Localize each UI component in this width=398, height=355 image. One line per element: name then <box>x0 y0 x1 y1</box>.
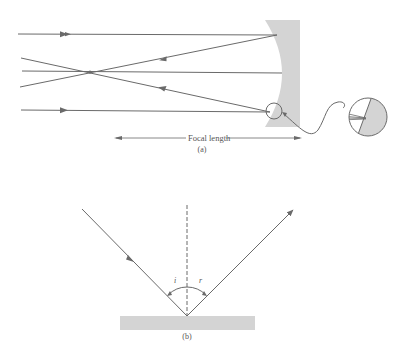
flat-mirror <box>120 316 255 330</box>
focal-length-label: Focal length <box>188 133 231 143</box>
reflection-diagram: Focal length (a) i r (b) <box>0 0 398 355</box>
part-b-plane-mirror-diagram: i r (b) <box>82 205 293 341</box>
magnified-inset <box>340 96 392 140</box>
optical-axis <box>22 71 282 73</box>
incident-ray <box>82 209 187 316</box>
arrow-icon <box>159 56 168 62</box>
part-a-concave-mirror-diagram: Focal length (a) <box>18 20 392 154</box>
caption-a: (a) <box>198 145 207 154</box>
arrow-icon <box>126 255 134 262</box>
arrow-icon <box>60 31 68 37</box>
arrow-right-icon <box>294 136 302 140</box>
arrow-icon <box>60 107 68 113</box>
reflected-ray-bottom <box>21 58 270 112</box>
reflected-ray-top <box>20 35 277 87</box>
focal-point <box>88 70 91 73</box>
caption-b: (b) <box>182 332 192 341</box>
angle-r-label: r <box>199 276 203 285</box>
reflected-ray <box>187 210 293 316</box>
incident-ray-top <box>18 34 277 35</box>
arrow-left-icon <box>114 136 122 140</box>
angle-i-label: i <box>174 276 176 285</box>
incident-ray-bottom <box>21 110 270 112</box>
